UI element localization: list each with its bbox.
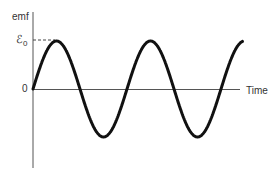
emf-time-graph <box>0 0 279 169</box>
peak-symbol: ℰ <box>16 33 23 46</box>
zero-label: 0 <box>22 84 28 94</box>
time-label: Time <box>246 86 268 96</box>
y-axis-label: emf <box>12 12 29 22</box>
peak-subscript: 0 <box>23 39 27 48</box>
peak-label: ℰ0 <box>16 34 27 48</box>
